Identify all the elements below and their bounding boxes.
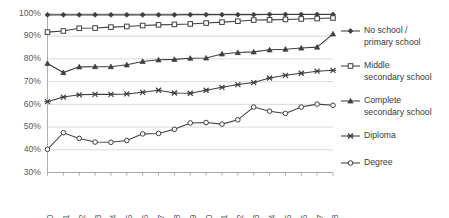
data-point-marker-square <box>283 17 288 22</box>
data-point-marker-x <box>282 73 288 78</box>
y-axis-tick-label: 80% <box>24 53 42 63</box>
data-point-marker-circle <box>140 132 145 137</box>
x-axis-tick-label: 2017 <box>315 214 325 218</box>
legend-item-degree[interactable]: Degree <box>341 157 393 167</box>
data-point-marker-square <box>77 26 82 31</box>
data-point-marker-circle <box>125 138 130 143</box>
series-no-school-primary-school <box>45 12 336 17</box>
x-axis-tick-label: 2006 <box>140 214 150 218</box>
series-diploma <box>44 68 336 104</box>
data-point-marker-x <box>266 76 272 81</box>
x-axis-tick-label: 2009 <box>188 214 198 218</box>
series-middle-secondary-school <box>45 16 335 35</box>
line-chart: 100%90%80%70%60%50%40%30% 20002001200220… <box>0 0 449 218</box>
data-point-marker-circle <box>299 105 304 110</box>
data-point-marker-x <box>314 69 320 74</box>
legend-item-middle[interactable]: Middlesecondary school <box>341 60 432 82</box>
data-point-marker-circle <box>45 147 50 152</box>
x-axis-tick-label: 2016 <box>299 214 309 218</box>
y-axis-tick-label: 30% <box>24 167 42 177</box>
data-point-marker-x <box>251 80 257 85</box>
data-point-marker-diamond <box>124 12 129 17</box>
data-point-marker-circle <box>188 121 193 126</box>
x-axis-tick-label: 2004 <box>108 214 118 218</box>
x-axis-tick-label: 2003 <box>93 214 103 218</box>
data-point-marker-diamond <box>77 12 82 17</box>
data-point-marker-diamond <box>93 12 98 17</box>
legend-item-complete[interactable]: Completesecondary school <box>341 95 432 117</box>
y-axis-tick-label: 90% <box>24 30 42 40</box>
data-point-marker-square <box>251 18 256 23</box>
data-point-marker-diamond <box>188 12 193 17</box>
data-point-marker-diamond <box>172 12 177 17</box>
data-point-marker-square <box>156 23 161 28</box>
data-point-marker-diamond <box>251 12 256 17</box>
data-point-marker-x <box>140 90 146 95</box>
legend-item-diploma[interactable]: Diploma <box>341 130 396 140</box>
y-axis-tick-label: 60% <box>24 99 42 109</box>
data-point-marker-diamond <box>140 12 145 17</box>
data-point-marker-circle <box>236 118 241 123</box>
data-point-marker-circle <box>348 161 353 166</box>
legend-label: Complete <box>364 95 401 105</box>
data-point-marker-x <box>171 91 177 96</box>
data-point-marker-diamond <box>219 12 224 17</box>
data-point-marker-x <box>187 91 193 96</box>
legend-label: Diploma <box>364 130 396 140</box>
x-axis-tick-label: 2013 <box>251 214 261 218</box>
data-point-marker-square <box>315 16 320 21</box>
data-point-marker-square <box>172 22 177 27</box>
data-point-marker-circle <box>267 109 272 114</box>
chart-legend: No school /primary schoolMiddlesecondary… <box>341 25 432 167</box>
data-point-marker-triangle <box>45 61 50 66</box>
data-point-marker-x <box>219 85 225 90</box>
data-point-marker-diamond <box>156 12 161 17</box>
data-point-marker-x <box>330 68 336 73</box>
legend-label: No school / <box>364 25 408 35</box>
x-axis-tick-marks <box>48 173 334 176</box>
data-point-marker-diamond <box>108 12 113 17</box>
data-point-marker-diamond <box>267 12 272 17</box>
legend-label-line2: secondary school <box>364 107 432 117</box>
data-point-marker-square <box>236 19 241 24</box>
x-axis-tick-label: 2014 <box>267 214 277 218</box>
data-point-marker-circle <box>93 140 98 145</box>
legend-label-line2: secondary school <box>364 72 432 82</box>
data-point-marker-square <box>61 29 66 34</box>
data-point-marker-circle <box>61 130 66 135</box>
data-point-marker-x <box>108 92 114 97</box>
data-point-marker-square <box>220 20 225 25</box>
data-point-marker-circle <box>283 111 288 116</box>
data-point-marker-circle <box>156 131 161 136</box>
data-point-marker-square <box>45 30 50 35</box>
data-point-marker-square <box>348 64 353 69</box>
data-point-marker-circle <box>315 102 320 107</box>
data-point-marker-x <box>235 82 241 87</box>
data-point-marker-square <box>331 16 336 21</box>
series-line <box>48 70 334 101</box>
y-axis-tick-label: 40% <box>24 144 42 154</box>
y-axis-tick-label: 100% <box>19 8 41 18</box>
data-point-marker-circle <box>109 140 114 145</box>
data-point-marker-x <box>124 91 130 96</box>
x-axis-tick-label: 2002 <box>77 214 87 218</box>
data-point-marker-square <box>93 26 98 31</box>
data-point-marker-x <box>203 88 209 93</box>
data-point-marker-x <box>92 92 98 97</box>
data-point-marker-triangle <box>330 31 335 36</box>
x-axis-tick-labels: 2000200120022003200420052006200720082009… <box>45 214 341 218</box>
legend-item-no-school[interactable]: No school /primary school <box>341 25 421 47</box>
data-point-marker-diamond <box>283 12 288 17</box>
data-point-marker-circle <box>77 136 82 141</box>
series-line <box>48 34 334 73</box>
data-point-marker-square <box>109 25 114 30</box>
x-axis-tick-label: 2011 <box>219 214 229 218</box>
y-axis-tick-label: 70% <box>24 76 42 86</box>
data-point-marker-x <box>155 88 161 93</box>
data-point-marker-x <box>347 134 353 139</box>
data-point-marker-diamond <box>348 29 353 34</box>
legend-label: Middle <box>364 60 390 70</box>
data-point-marker-x <box>298 71 304 76</box>
data-point-marker-square <box>267 18 272 23</box>
data-point-marker-diamond <box>235 12 240 17</box>
